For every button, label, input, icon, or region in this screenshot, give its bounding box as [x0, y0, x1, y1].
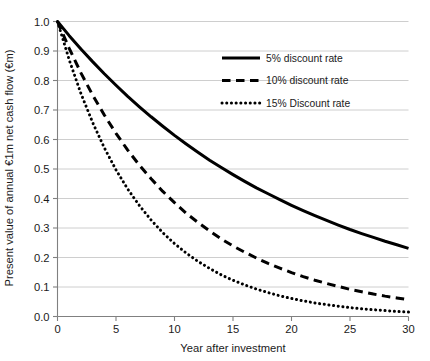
y-tick-label-0.3: 0.3 [34, 222, 50, 234]
legend-label-2: 15% Discount rate [266, 98, 350, 109]
y-tick-label-1.0: 1.0 [34, 16, 50, 28]
discount-factor-line-chart: 051015202530 0.00.10.20.30.40.50.60.70.8… [0, 0, 430, 361]
y-tick-label-0.9: 0.9 [34, 45, 50, 57]
x-tick-label-25: 25 [344, 323, 356, 335]
x-tick-label-15: 15 [227, 323, 239, 335]
chart-background [0, 0, 430, 361]
y-tick-label-0.8: 0.8 [34, 75, 50, 87]
y-tick-label-0.1: 0.1 [34, 281, 50, 293]
y-tick-label-0.4: 0.4 [34, 193, 50, 205]
y-axis-title: Present value of annual €1m net cash flo… [3, 49, 15, 286]
x-tick-label-10: 10 [168, 323, 180, 335]
x-tick-label-20: 20 [285, 323, 297, 335]
y-tick-label-0.5: 0.5 [34, 163, 50, 175]
y-tick-label-0.6: 0.6 [34, 134, 50, 146]
x-tick-label-5: 5 [113, 323, 119, 335]
y-tick-label-0.2: 0.2 [34, 252, 50, 264]
x-tick-label-0: 0 [54, 323, 60, 335]
x-tick-label-30: 30 [402, 323, 414, 335]
legend-label-1: 10% discount rate [266, 75, 349, 86]
y-tick-label-0.7: 0.7 [34, 104, 50, 116]
y-tick-label-0.0: 0.0 [34, 311, 50, 323]
chart-container: 051015202530 0.00.10.20.30.40.50.60.70.8… [0, 0, 430, 361]
legend-label-0: 5% discount rate [266, 53, 343, 64]
x-axis-title: Year after investment [180, 342, 286, 354]
